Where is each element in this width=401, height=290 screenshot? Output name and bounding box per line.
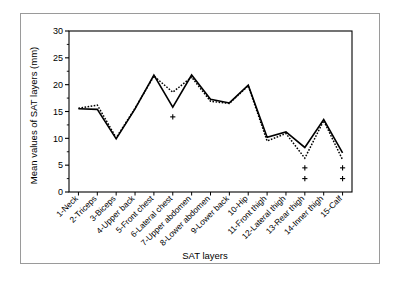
y-tick-label: 25 — [53, 53, 63, 63]
plus-markers-group — [170, 114, 345, 181]
x-axis-category-labels: 1-Neck2-Triceps3-Biceps4-Upper back5-Fro… — [54, 193, 344, 248]
plot-frame-rect — [69, 31, 352, 192]
y-tick-label: 15 — [53, 107, 63, 117]
y-tick-label: 5 — [58, 160, 63, 170]
y-tick-label: 30 — [53, 26, 63, 36]
data-series-group — [78, 75, 342, 160]
y-axis-ticks: 051015202530 — [53, 26, 69, 197]
plot-area: 051015202530 1-Neck2-Triceps3-Biceps4-Up… — [0, 0, 401, 290]
y-tick-label: 10 — [53, 134, 63, 144]
plot-frame — [69, 31, 352, 192]
y-tick-label: 20 — [53, 80, 63, 90]
series-line-solid — [78, 75, 342, 153]
sat-layers-line-chart: Mean values of SAT layers (mm) SAT layer… — [0, 0, 401, 290]
series-line-dotted — [78, 76, 342, 160]
y-tick-label: 0 — [58, 187, 63, 197]
x-category-label: 15-Calf — [318, 193, 344, 219]
